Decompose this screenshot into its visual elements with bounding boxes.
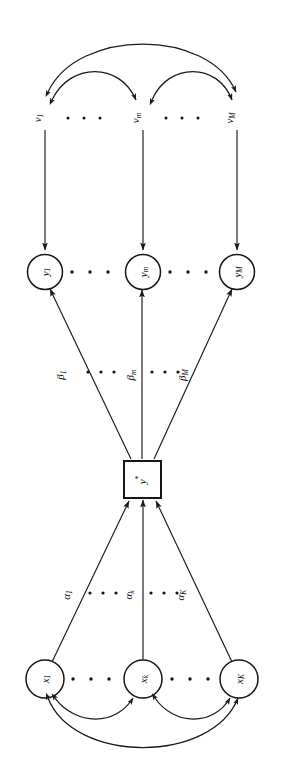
v-label-M: vM xyxy=(223,112,237,124)
v-labels: v1 vm vM xyxy=(31,112,237,124)
arc-v1-vM xyxy=(48,44,236,92)
beta-label-m: βm xyxy=(124,369,138,381)
figure-root: v1 vm vM xyxy=(0,0,296,782)
x-to-latent-edges xyxy=(52,500,232,662)
x-node-label-K: xK xyxy=(233,673,246,685)
v-to-y-edges xyxy=(45,130,237,250)
arc-x1-xk xyxy=(55,698,133,719)
edge-xK-ystar xyxy=(156,501,232,662)
ystar-label: y* xyxy=(134,475,148,485)
x-node-label-1: x1 xyxy=(39,675,52,685)
arc-xk-xK xyxy=(155,698,230,719)
alpha-labels: α1 αk αK xyxy=(60,589,188,601)
arc-v1-vm xyxy=(52,72,136,101)
y-node-label-M: yM xyxy=(231,266,244,279)
y-node-label-1: y1 xyxy=(39,268,52,278)
path-diagram: v1 vm vM xyxy=(0,0,296,782)
x-node-label-k: xk xyxy=(137,674,150,684)
v-correlation-arcs xyxy=(48,44,236,100)
v-label-m: vm xyxy=(129,112,143,123)
latent-to-y-edges xyxy=(50,289,232,459)
alpha-label-K: αK xyxy=(174,589,188,601)
arc-x1-xK xyxy=(48,698,238,748)
y-nodes: y1 ym yM xyxy=(28,255,255,290)
latent-variable-node: y* xyxy=(124,461,161,498)
edge-x1-ystar xyxy=(52,501,129,662)
beta-labels: β1 βm βM xyxy=(54,368,190,381)
beta-label-1: β1 xyxy=(54,370,68,380)
alpha-label-k: αk xyxy=(122,590,136,600)
y-node-label-m: ym xyxy=(137,266,150,278)
arc-vm-vM xyxy=(152,72,232,101)
alpha-label-1: α1 xyxy=(60,590,74,600)
edge-ystar-yM xyxy=(154,289,232,459)
x-correlation-arcs xyxy=(48,698,238,748)
v-label-1: v1 xyxy=(31,114,45,123)
x-nodes: x1 xk xK xyxy=(26,660,258,698)
